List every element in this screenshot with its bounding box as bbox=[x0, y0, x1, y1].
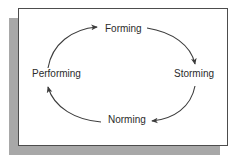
arrow-storming-to-norming bbox=[152, 86, 195, 121]
node-label-norming: Norming bbox=[106, 114, 148, 126]
node-label-performing: Performing bbox=[30, 68, 83, 80]
arrow-forming-to-storming bbox=[147, 28, 195, 64]
arrow-performing-to-forming bbox=[48, 27, 97, 68]
node-label-forming: Forming bbox=[103, 23, 144, 35]
arrow-norming-to-performing bbox=[48, 87, 101, 122]
node-label-storming: Storming bbox=[172, 68, 216, 80]
diagram-canvas: Forming Storming Norming Performing bbox=[0, 0, 240, 163]
